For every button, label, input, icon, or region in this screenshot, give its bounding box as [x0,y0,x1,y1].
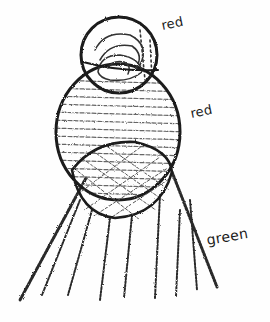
sketch-drawing [0,0,270,322]
lower-circle [70,138,180,225]
sketch-canvas: red red green [0,0,270,322]
fan-rays [20,172,217,300]
